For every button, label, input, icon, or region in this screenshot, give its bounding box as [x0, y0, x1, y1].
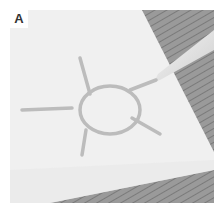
photo-panel: [10, 10, 214, 203]
photo-scene: [10, 10, 214, 203]
panel-label: A: [10, 10, 28, 28]
